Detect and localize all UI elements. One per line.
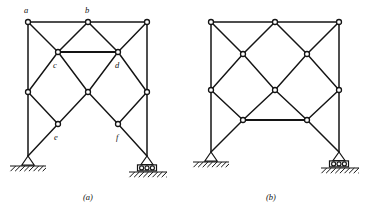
truss-joint-b-hr [337, 88, 342, 93]
ground-hatch [157, 172, 162, 177]
truss-joint-a-b [86, 20, 91, 25]
truss-joint-b-f [305, 118, 310, 123]
ground-hatch [38, 166, 43, 171]
truss-member [243, 90, 275, 120]
ground-hatch [221, 162, 226, 167]
truss-member [275, 54, 307, 90]
truss-joint-a-d [116, 50, 121, 55]
truss-joint-b-a [209, 20, 214, 25]
truss-member [88, 22, 118, 52]
ground-hatch [29, 166, 34, 171]
node-label-a: a [24, 5, 28, 15]
pinned-support-triangle [22, 156, 34, 165]
ground-hatch [162, 172, 167, 177]
figure-caption-b: (b) [266, 192, 276, 202]
figure-caption-a: (a) [83, 192, 93, 202]
truss-joint-b-m [273, 88, 278, 93]
ground-hatch [198, 162, 203, 167]
ground-hatch [143, 172, 148, 177]
ground-hatch [203, 162, 208, 167]
truss-joint-a-g [145, 20, 150, 25]
ground-hatch [134, 172, 139, 177]
truss-joint-a-e [56, 122, 61, 127]
truss-member [307, 54, 339, 90]
truss-panel-a: abcdef(a) [10, 5, 167, 202]
truss-joint-a-hl [26, 90, 31, 95]
truss-joint-b-d [305, 52, 310, 57]
ground-hatch [166, 177, 167, 178]
truss-member [58, 92, 88, 124]
ground-hatch [139, 172, 144, 177]
truss-joint-b-c [241, 52, 246, 57]
truss-member [211, 22, 243, 54]
ground-hatch [326, 168, 331, 173]
ground-hatch [153, 172, 158, 177]
truss-member [118, 92, 147, 124]
truss-member [118, 52, 147, 92]
ground-hatch [345, 168, 350, 173]
truss-joint-a-a [26, 20, 31, 25]
ground-hatch [43, 168, 46, 171]
truss-member [58, 22, 88, 52]
node-label-f: f [116, 132, 120, 142]
truss-member [307, 22, 339, 54]
truss-panel-b: (b) [193, 20, 359, 203]
truss-member [118, 22, 147, 52]
truss-member [28, 92, 58, 124]
node-label-c: c [53, 60, 57, 70]
truss-leg [118, 124, 147, 156]
truss-leg [307, 120, 339, 152]
roller-support-triangle [141, 156, 153, 165]
truss-member [28, 22, 58, 52]
roller-wheel [342, 162, 346, 166]
roller-wheel [150, 166, 154, 170]
truss-joint-b-e [241, 118, 246, 123]
truss-joint-a-c [56, 50, 61, 55]
ground-hatch [24, 166, 29, 171]
truss-figure-board: abcdef(a)(b) [0, 0, 367, 210]
truss-member [243, 22, 275, 54]
ground-hatch [11, 166, 16, 171]
truss-leg [211, 120, 243, 152]
ground-hatch [349, 168, 354, 173]
ground-hatch [194, 162, 199, 167]
ground-hatch [354, 168, 359, 173]
ground-hatch [212, 162, 217, 167]
ground-hatch [335, 168, 340, 173]
roller-wheel [145, 166, 149, 170]
truss-member [307, 90, 339, 120]
node-label-b: b [85, 5, 89, 15]
pinned-support-triangle [205, 152, 217, 161]
roller-wheel [332, 162, 336, 166]
ground-hatch [20, 166, 25, 171]
roller-support-triangle [333, 152, 345, 161]
truss-member [88, 92, 118, 124]
truss-joint-b-b [273, 20, 278, 25]
ground-hatch [358, 173, 359, 174]
ground-hatch [340, 168, 345, 173]
ground-hatch [226, 164, 229, 167]
node-label-e: e [54, 132, 58, 142]
truss-joint-b-hl [209, 88, 214, 93]
truss-member [28, 52, 58, 92]
ground-hatch [217, 162, 222, 167]
ground-hatch [15, 166, 20, 171]
ground-hatch [207, 162, 212, 167]
ground-hatch [34, 166, 39, 171]
roller-wheel [337, 162, 341, 166]
node-label-d: d [115, 60, 120, 70]
truss-member [243, 54, 275, 90]
ground-hatch [148, 172, 153, 177]
truss-joint-a-m [86, 90, 91, 95]
roller-wheel [140, 166, 144, 170]
ground-hatch [130, 172, 135, 177]
truss-member [275, 22, 307, 54]
truss-member [88, 52, 118, 92]
ground-hatch [322, 168, 327, 173]
truss-member [275, 90, 307, 120]
truss-joint-a-f [116, 122, 121, 127]
truss-joint-b-g [337, 20, 342, 25]
truss-member [58, 52, 88, 92]
truss-member [211, 54, 243, 90]
truss-diagram-canvas: abcdef(a)(b) [0, 0, 367, 210]
